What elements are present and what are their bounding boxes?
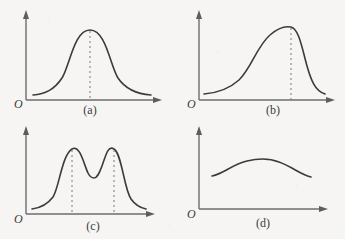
axes-d (196, 126, 328, 212)
origin-label-b: O (187, 97, 196, 111)
y-axis-arrow-icon (23, 126, 29, 135)
curve-b (204, 27, 325, 94)
figure-container: O (a) O (b) (0, 0, 345, 239)
panel-label-d: (d) (256, 216, 270, 230)
curve-a (33, 30, 151, 95)
panel-a: O (a) (0, 0, 172, 119)
origin-label-c: O (14, 212, 23, 226)
curve-c (32, 148, 146, 209)
panel-label-b: (b) (266, 103, 280, 117)
y-axis-arrow-icon (196, 126, 202, 135)
x-axis-arrow-icon (326, 97, 335, 103)
y-axis-arrow-icon (196, 10, 202, 19)
panel-c: O (c) (0, 119, 172, 238)
axes-a (23, 10, 162, 103)
x-axis-arrow-icon (153, 97, 162, 103)
axes-b (196, 10, 335, 103)
curve-d (212, 159, 311, 177)
origin-label-d: O (187, 207, 196, 221)
panel-b: O (b) (173, 0, 345, 119)
origin-label-a: O (14, 97, 23, 111)
panel-label-c: (c) (86, 219, 99, 233)
panel-label-a: (a) (83, 103, 96, 117)
x-axis-arrow-icon (146, 211, 155, 217)
x-axis-arrow-icon (319, 206, 328, 212)
y-axis-arrow-icon (23, 10, 29, 19)
panel-d: O (d) (173, 119, 345, 238)
